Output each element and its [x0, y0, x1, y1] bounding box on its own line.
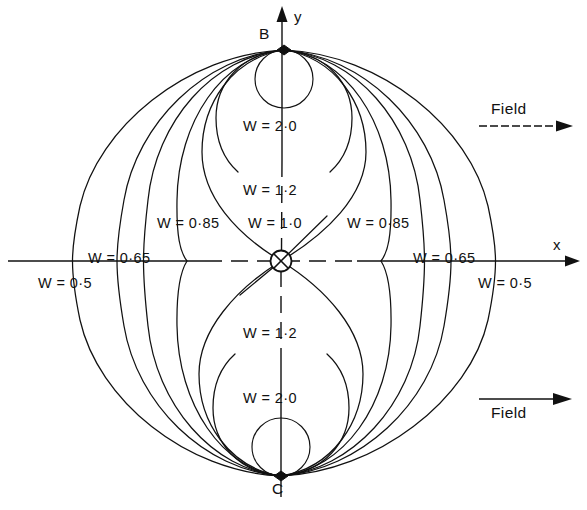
- contour-w-0-85-left: [177, 50, 284, 476]
- contour-label-w-1-2-top: W = 1·2: [243, 182, 297, 198]
- contour-w-2-0-top: [255, 50, 313, 108]
- node-b-marker: [277, 45, 291, 55]
- contour-label-w-0-65-right: W = 0·65: [413, 250, 475, 266]
- field-label-bottom: Field: [491, 404, 527, 422]
- y-axis-upper-dashed: [282, 160, 283, 252]
- x-axis-arrowhead: [565, 256, 580, 267]
- contour-label-w-2-0-top: W = 2·0: [243, 118, 297, 134]
- saddle-point-marker: [271, 251, 292, 272]
- contour-label-w-0-5-left: W = 0·5: [38, 275, 92, 291]
- contour-label-w-2-0-bottom: W = 2·0: [243, 390, 297, 406]
- figure-root: B C y x Field Field W = 2·0 W = 1·2 W = …: [0, 0, 587, 510]
- contour-w-1-2-top-left: [216, 50, 284, 172]
- contour-label-w-1-0-center: W = 1·0: [248, 215, 302, 231]
- contour-label-w-0-65-left: W = 0·65: [88, 250, 150, 266]
- field-arrow-top: [479, 121, 573, 132]
- contour-w-1-2-bottom-right: [281, 354, 349, 476]
- contour-w-1-0-bottom-right: [281, 261, 363, 476]
- contour-label-w-0-85-left: W = 0·85: [157, 215, 219, 231]
- contour-label-w-1-2-bottom: W = 1·2: [243, 325, 297, 341]
- contour-w-1-2-top-right: [284, 50, 352, 172]
- contour-w-1-0-bottom-left: [199, 261, 281, 476]
- x-axis-label: x: [553, 236, 561, 253]
- contour-label-w-0-85-right: W = 0·85: [347, 215, 409, 231]
- y-axis-label: y: [294, 8, 302, 25]
- node-label-c: C: [272, 480, 284, 498]
- contour-w-1-2-bottom-left: [213, 354, 281, 476]
- node-label-b: B: [259, 25, 270, 43]
- field-label-top: Field: [491, 100, 527, 118]
- contour-label-w-0-5-right: W = 0·5: [478, 275, 532, 291]
- y-axis-arrowhead: [277, 6, 288, 22]
- contour-w-0-85-right: [281, 50, 391, 476]
